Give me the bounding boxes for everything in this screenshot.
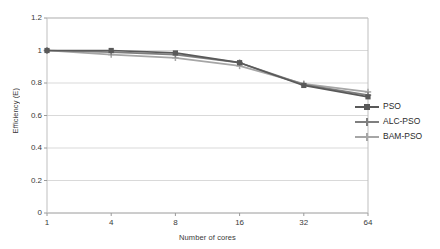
- legend-marker: [364, 104, 370, 110]
- x-axis-title: Number of cores: [47, 233, 368, 242]
- legend-label-alc-pso: ALC-PSO: [383, 117, 420, 126]
- legend-label-bam-pso: BAM-PSO: [383, 132, 422, 141]
- series-line-pso: [47, 51, 368, 97]
- legend-marker: [363, 133, 371, 141]
- legend-swatch-alc-pso: [355, 116, 379, 127]
- data-point-marker: [301, 83, 306, 88]
- x-tick-label: 1: [45, 219, 49, 227]
- legend-label-pso: PSO: [383, 102, 401, 111]
- legend-marker: [363, 118, 371, 126]
- series-line-bam-pso: [47, 51, 368, 92]
- legend-swatch-pso: [355, 101, 379, 112]
- chart-legend: PSO ALC-PSO BAM-PSO: [355, 99, 439, 144]
- x-tick-label: 4: [109, 219, 113, 227]
- x-tick-label: 64: [364, 219, 373, 227]
- data-point-marker: [109, 48, 114, 53]
- x-tick-label: 8: [173, 219, 177, 227]
- legend-item-bam-pso[interactable]: BAM-PSO: [355, 129, 439, 144]
- legend-swatch-bam-pso: [355, 131, 379, 142]
- x-tick-label: 16: [235, 219, 244, 227]
- legend-item-pso[interactable]: PSO: [355, 99, 439, 114]
- data-point-marker: [237, 60, 242, 65]
- x-tick-label: 32: [299, 219, 308, 227]
- data-point-marker: [173, 50, 178, 55]
- efficiency-line-chart: Efficiency (E) 00.20.40.60.811.2 1481632…: [0, 0, 440, 249]
- data-point-marker: [44, 48, 49, 53]
- legend-item-alc-pso[interactable]: ALC-PSO: [355, 114, 439, 129]
